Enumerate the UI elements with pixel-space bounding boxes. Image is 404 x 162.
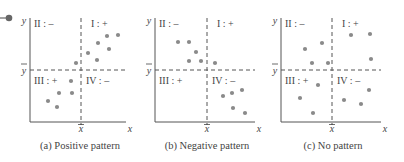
- data-point: [105, 34, 109, 38]
- y-mean-label: y: [146, 65, 152, 76]
- data-point: [320, 41, 324, 45]
- data-point: [95, 58, 99, 62]
- x-axis-label: x: [256, 123, 262, 134]
- data-point: [57, 91, 61, 95]
- bullet-icon: [6, 15, 13, 22]
- data-point: [359, 102, 363, 106]
- quadrant-I-label: I : +: [217, 18, 234, 29]
- y-axis-label: y: [272, 15, 278, 26]
- data-point: [96, 41, 100, 45]
- y-axis-label: y: [146, 15, 152, 26]
- y-mean-label: y: [272, 65, 278, 76]
- data-point: [74, 61, 78, 65]
- quadrant-I-label: I : +: [342, 18, 359, 29]
- panel-caption: (b) Negative pattern: [165, 140, 250, 152]
- quadrant-III-label: III : +: [159, 75, 183, 86]
- data-point: [310, 61, 314, 65]
- scatter-quadrant-figure: yxxyII : –I : +III : +IV : –(a) Positive…: [0, 0, 404, 162]
- data-point: [199, 59, 203, 63]
- panel-caption: (a) Positive pattern: [40, 140, 121, 152]
- quadrant-IV-label: IV : –: [337, 75, 361, 86]
- data-point: [369, 57, 373, 61]
- data-point: [349, 33, 353, 37]
- data-point: [70, 91, 74, 95]
- data-point: [55, 105, 59, 109]
- y-mean-label: y: [21, 65, 27, 76]
- data-point: [116, 33, 120, 37]
- data-point: [86, 51, 90, 55]
- data-point: [231, 106, 235, 110]
- data-point: [298, 96, 302, 100]
- data-point: [240, 88, 244, 92]
- data-point: [316, 83, 320, 87]
- quadrant-II-label: II : –: [159, 18, 179, 29]
- data-point: [303, 47, 307, 51]
- data-point: [230, 91, 234, 95]
- data-point: [367, 88, 371, 92]
- data-point: [368, 32, 372, 36]
- quadrant-III-label: III : +: [34, 75, 58, 86]
- quadrant-II-label: II : –: [34, 18, 54, 29]
- quadrant-III-label: III : +: [285, 75, 309, 86]
- data-point: [187, 40, 191, 44]
- data-point: [107, 47, 111, 51]
- x-axis-label: x: [382, 123, 388, 134]
- data-point: [69, 79, 73, 83]
- data-point: [326, 61, 330, 65]
- panel-caption: (c) No pattern: [304, 140, 364, 152]
- quadrant-I-label: I : +: [91, 18, 108, 29]
- y-axis-label: y: [21, 15, 27, 26]
- data-point: [176, 40, 180, 44]
- data-point: [194, 50, 198, 54]
- data-point: [187, 59, 191, 63]
- data-point: [221, 94, 225, 98]
- quadrant-IV-label: IV : –: [212, 75, 236, 86]
- data-point: [311, 111, 315, 115]
- data-point: [342, 98, 346, 102]
- x-axis-label: x: [127, 123, 133, 134]
- data-point: [213, 61, 217, 65]
- quadrant-IV-label: IV : –: [86, 75, 110, 86]
- data-point: [243, 111, 247, 115]
- quadrant-II-label: II : –: [285, 18, 305, 29]
- data-point: [46, 99, 50, 103]
